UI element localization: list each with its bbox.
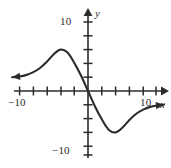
y-axis-tick-label-positive: 10: [60, 16, 71, 27]
y-axis-arrow-icon: [84, 8, 93, 16]
graph-figure: 10 −10 −10 10 y x: [0, 0, 171, 168]
x-axis-name-label: x: [160, 99, 165, 110]
coordinate-plane-svg: [0, 0, 171, 168]
y-axis-tick-label-negative: −10: [52, 145, 70, 156]
x-axis-tick-label-positive: 10: [140, 97, 151, 108]
x-axis-tick-label-negative: −10: [8, 97, 26, 108]
y-axis-name-label: y: [95, 8, 100, 19]
x-axis-arrow-icon: [161, 87, 169, 96]
